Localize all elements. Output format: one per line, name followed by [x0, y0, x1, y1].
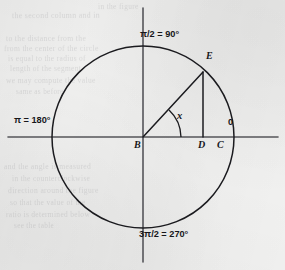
- axis-label-quarter-turn: π/2 = 90°: [140, 29, 179, 39]
- point-label-E: E: [206, 50, 213, 61]
- point-label-B: B: [134, 139, 141, 150]
- unit-circle-figure: in the figurethe second column and into …: [0, 0, 285, 270]
- angle-label-x: x: [177, 110, 182, 121]
- point-label-C: C: [217, 139, 224, 150]
- radius-segment-BE: [143, 72, 203, 137]
- axis-label-three-quarter-turn: 3π/2 = 270°: [139, 229, 188, 239]
- point-label-D: D: [198, 139, 205, 150]
- axis-label-zero-angle: 0: [228, 117, 233, 127]
- axis-label-half-turn: π = 180°: [14, 115, 51, 125]
